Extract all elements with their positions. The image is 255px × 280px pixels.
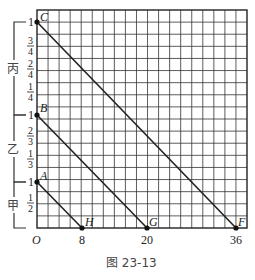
svg-text:1: 1 xyxy=(28,148,33,159)
label-H: H xyxy=(84,215,95,229)
bing-top-1: 1 xyxy=(28,15,34,29)
fraction-1-3: 13 xyxy=(27,148,34,170)
svg-text:2: 2 xyxy=(28,58,33,69)
svg-text:2: 2 xyxy=(28,203,33,214)
label-A: A xyxy=(39,169,48,183)
svg-text:4: 4 xyxy=(28,46,33,57)
fraction-1-2: 12 xyxy=(27,192,34,214)
label-B: B xyxy=(40,101,48,115)
grid xyxy=(37,10,247,228)
svg-text:4: 4 xyxy=(28,92,33,103)
label-F: F xyxy=(237,215,246,229)
fraction-3-4: 34 xyxy=(27,35,34,57)
svg-text:3: 3 xyxy=(28,136,33,147)
group-name-jia: 甲 xyxy=(7,199,19,213)
x-tick-8: 8 xyxy=(79,233,85,247)
label-G: G xyxy=(149,215,158,229)
yi-top-1: 1 xyxy=(28,108,34,122)
group-name-yi: 乙 xyxy=(7,143,19,157)
x-tick-36: 36 xyxy=(230,233,242,247)
point-A xyxy=(34,179,39,184)
figure-caption: 图 23-13 xyxy=(106,256,157,270)
svg-text:3: 3 xyxy=(28,35,33,46)
svg-text:1: 1 xyxy=(28,192,33,203)
diagram-canvas: A B C H G F O 8 20 36 丙 乙 甲 1 1 1 34 24 … xyxy=(0,0,255,280)
origin-label: O xyxy=(32,233,41,247)
jia-top-1: 1 xyxy=(28,175,34,189)
fraction-2-4: 24 xyxy=(27,58,34,80)
svg-text:4: 4 xyxy=(28,69,33,80)
svg-text:3: 3 xyxy=(28,159,33,170)
point-H xyxy=(79,225,84,230)
svg-text:2: 2 xyxy=(28,125,33,136)
label-C: C xyxy=(40,10,49,24)
point-B xyxy=(34,112,39,117)
point-C xyxy=(34,19,39,24)
group-name-bing: 丙 xyxy=(7,62,19,76)
fraction-1-4: 14 xyxy=(27,81,34,103)
svg-text:1: 1 xyxy=(28,81,33,92)
x-tick-20: 20 xyxy=(141,233,153,247)
fraction-2-3: 23 xyxy=(27,125,34,147)
